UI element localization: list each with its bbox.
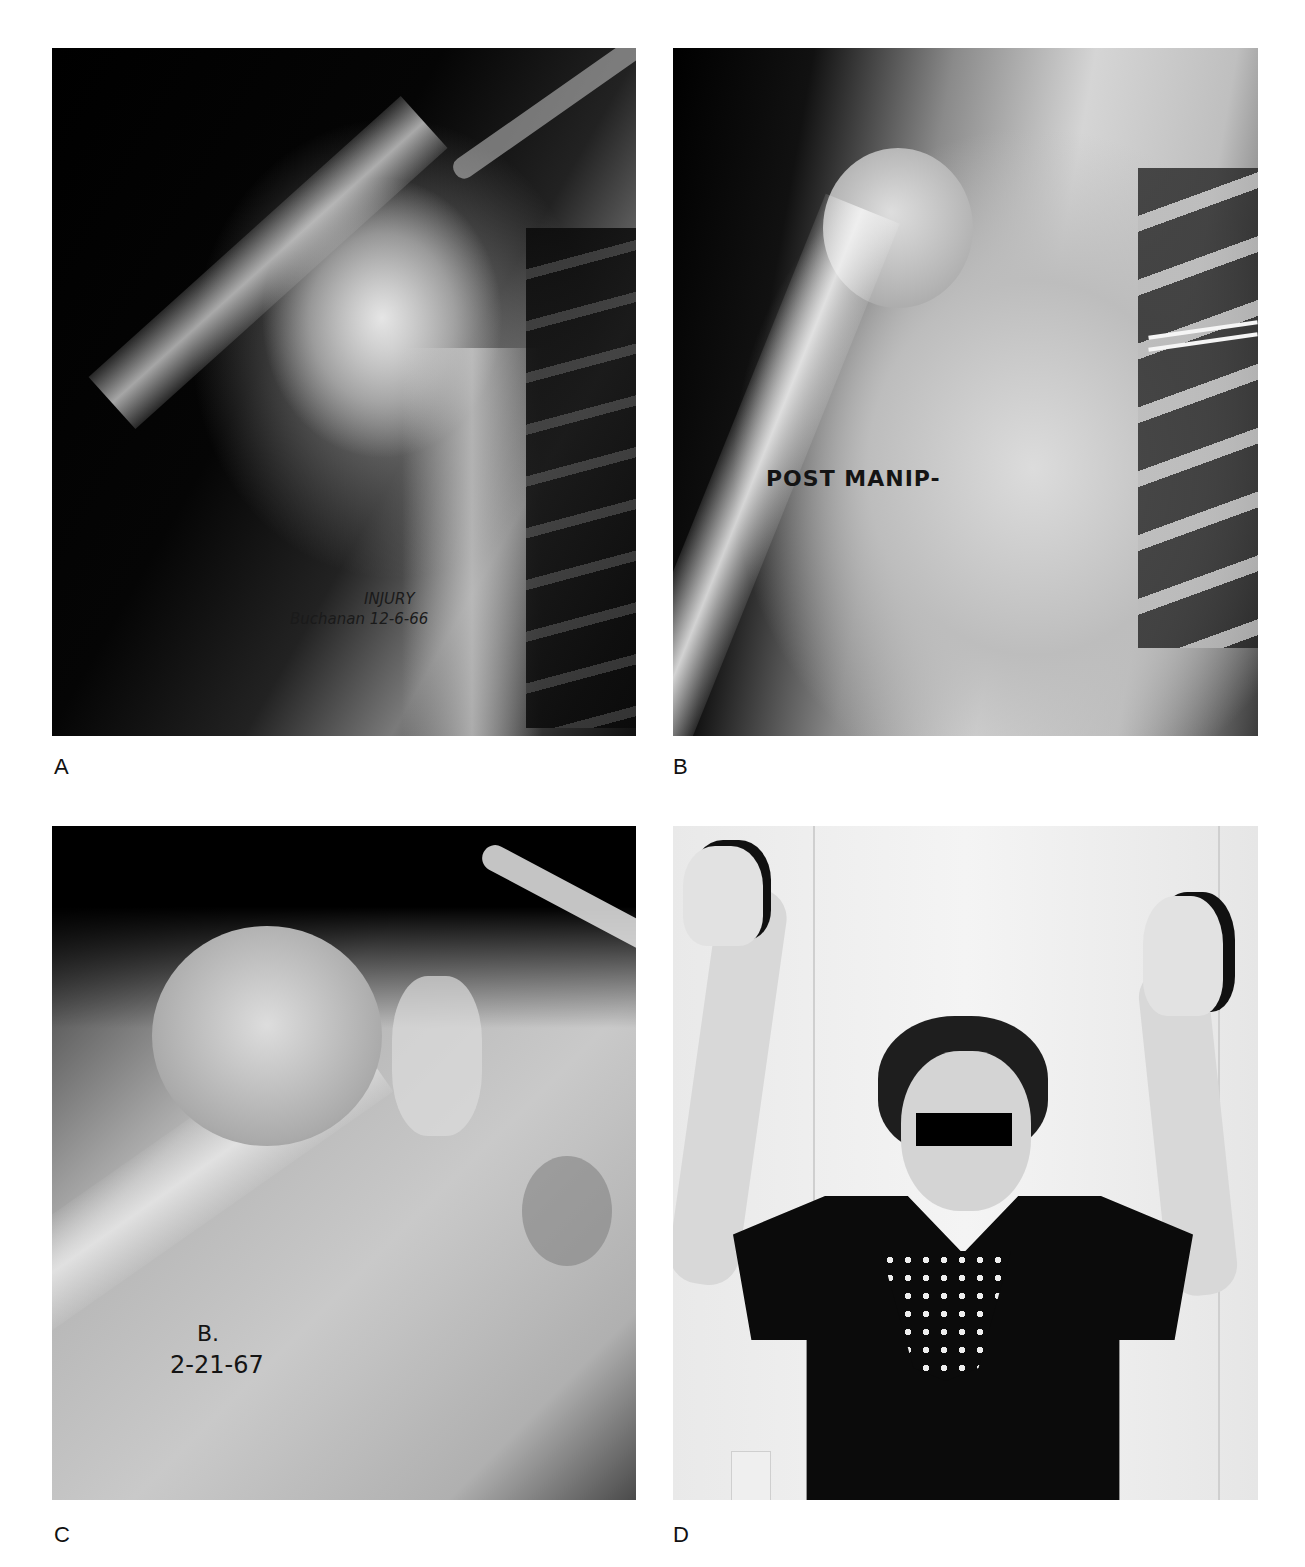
ribs-shape [1138, 168, 1258, 648]
humeral-head-shape [152, 926, 382, 1146]
panel-d-patient-photo [673, 826, 1258, 1500]
panel-label-d: D [673, 1524, 689, 1546]
annotation-name-date: Buchanan 12-6-66 [290, 610, 428, 628]
panel-b-xray-post-manipulation: POST MANIP- [673, 48, 1258, 736]
acromion-shape [478, 841, 636, 958]
humerus-shaft-shape [89, 96, 448, 429]
annotation-injury: INJURY [364, 590, 415, 608]
panel-c-xray-followup: B. 2-21-67 [52, 826, 636, 1500]
panel-label-b: B [673, 756, 688, 778]
panel-a-xray-injury: INJURY Buchanan 12-6-66 [52, 48, 636, 736]
annotation-date: 2-21-67 [170, 1351, 264, 1379]
panel-label-c: C [54, 1524, 70, 1546]
annotation-post-manip: POST MANIP- [766, 466, 941, 491]
soft-tissue-shadow [402, 348, 542, 736]
wall-outlet [731, 1451, 771, 1500]
left-hand [1143, 896, 1223, 1016]
anonymizing-eye-bar [916, 1113, 1012, 1146]
panel-label-a: A [54, 756, 69, 778]
glenoid-shape [392, 976, 482, 1136]
right-hand [683, 846, 763, 946]
humerus-shaft-shape [673, 194, 900, 736]
soft-tissue-shadow [522, 1156, 612, 1266]
clavicle-shape [449, 48, 636, 183]
ribs-shape [526, 228, 636, 728]
annotation-initial: B. [197, 1321, 219, 1346]
